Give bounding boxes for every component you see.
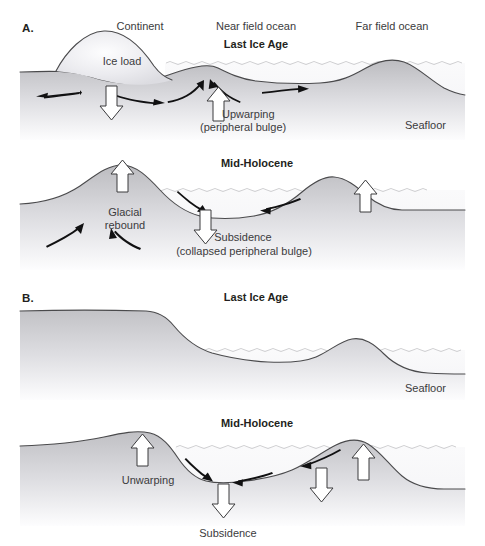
label-upwarping: Upwarping: [222, 108, 312, 121]
label-unwarping: Unwarping: [108, 474, 188, 487]
panel-a2-cross-section: [0, 150, 485, 280]
label-rebound: rebound: [92, 219, 158, 232]
label-seafloor-a1: Seafloor: [405, 119, 465, 132]
label-ice-load: Ice load: [92, 55, 152, 68]
label-collapsed-peripheral-bulge: (collapsed peripheral bulge): [136, 245, 352, 258]
figure-container: A. Continent Near field ocean Far field …: [0, 0, 485, 546]
label-seafloor-b1: Seafloor: [405, 382, 465, 395]
label-glacial: Glacial: [92, 206, 158, 219]
label-subsidence-b2: Subsidence: [188, 527, 268, 540]
label-subsidence-a2: Subsidence: [178, 231, 308, 244]
label-peripheral-bulge: (peripheral bulge): [200, 121, 330, 134]
